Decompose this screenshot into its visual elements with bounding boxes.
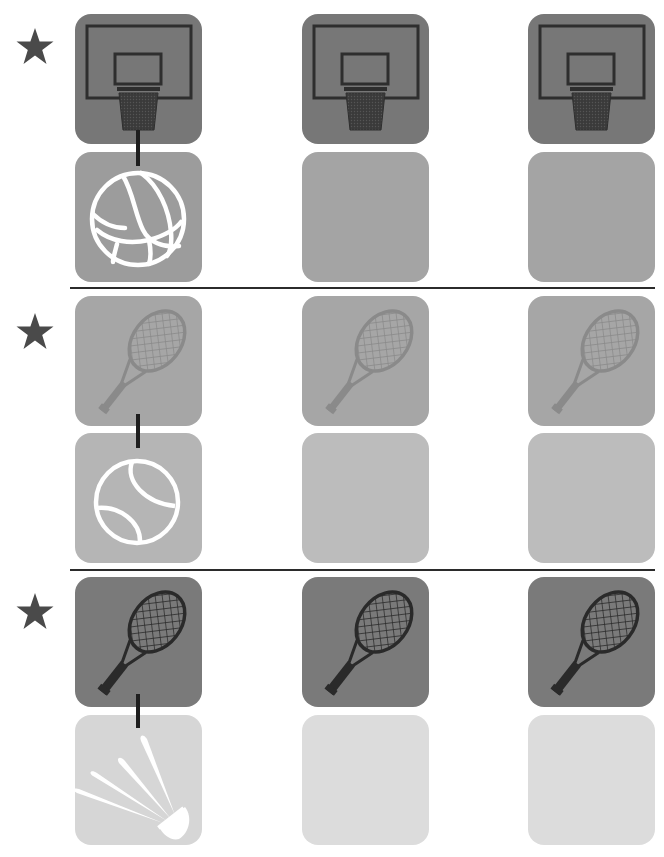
hoop-tile <box>302 14 429 144</box>
star-icon <box>16 312 54 352</box>
answer-blank-tile[interactable] <box>528 715 655 845</box>
basketball-hoop-icon <box>528 14 655 144</box>
tennis-racket-tile-example <box>75 296 202 426</box>
tennis-racket-tile <box>528 296 655 426</box>
basketball-tile-example <box>75 152 202 282</box>
match-connector-line <box>136 694 140 728</box>
tennis-racket-icon <box>528 296 655 426</box>
tennis-ball-tile-example <box>75 433 202 563</box>
badminton-racket-tile <box>302 577 429 707</box>
badminton-racket-tile <box>528 577 655 707</box>
badminton-racket-icon <box>528 577 655 707</box>
section-divider <box>70 569 655 571</box>
badminton-racket-tile-example <box>75 577 202 707</box>
section-divider <box>70 287 655 289</box>
basketball-icon <box>75 152 202 282</box>
tennis-racket-icon <box>75 296 202 426</box>
hoop-tile <box>528 14 655 144</box>
tennis-racket-tile <box>302 296 429 426</box>
answer-blank-tile[interactable] <box>528 152 655 282</box>
star-icon <box>16 27 54 67</box>
star-icon <box>16 592 54 632</box>
shuttlecock-icon <box>75 715 202 845</box>
answer-blank-tile[interactable] <box>302 152 429 282</box>
match-connector-line <box>136 130 140 166</box>
answer-blank-tile[interactable] <box>302 433 429 563</box>
hoop-tile-example <box>75 14 202 144</box>
match-connector-line <box>136 414 140 448</box>
tennis-ball-icon <box>75 433 202 563</box>
answer-blank-tile[interactable] <box>528 433 655 563</box>
badminton-racket-icon <box>302 577 429 707</box>
basketball-hoop-icon <box>75 14 202 144</box>
answer-blank-tile[interactable] <box>302 715 429 845</box>
tennis-racket-icon <box>302 296 429 426</box>
basketball-hoop-icon <box>302 14 429 144</box>
badminton-racket-icon <box>75 577 202 707</box>
shuttlecock-tile-example <box>75 715 202 845</box>
